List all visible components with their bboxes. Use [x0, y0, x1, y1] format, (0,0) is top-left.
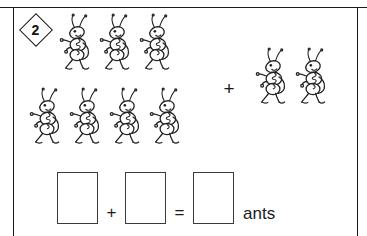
ant-icon — [254, 46, 292, 108]
ant-row — [28, 86, 188, 148]
page-border-top — [0, 7, 367, 8]
group-plus-operator: + — [219, 78, 239, 100]
second-addend-box[interactable] — [125, 172, 166, 224]
page-border-left — [13, 7, 14, 236]
ant-icon — [98, 12, 136, 74]
ant-figure — [138, 12, 176, 74]
ant-figure — [98, 12, 136, 74]
sum-box[interactable] — [193, 172, 234, 224]
answer-equation: + = ants — [57, 172, 275, 236]
page-border-right — [357, 7, 358, 236]
ant-icon — [68, 86, 106, 148]
plus-operator: + — [98, 172, 125, 224]
ant-icon — [148, 86, 186, 148]
ant-figure — [58, 12, 96, 74]
ant-figure — [294, 46, 332, 108]
ant-figure — [108, 86, 146, 148]
ant-figure — [148, 86, 186, 148]
ant-figure — [254, 46, 292, 108]
ant-icon — [58, 12, 96, 74]
first-addend-box[interactable] — [57, 172, 98, 224]
left-ant-group — [28, 12, 218, 164]
ant-icon — [294, 46, 332, 108]
answer-unit-label: ants — [234, 172, 275, 224]
ant-icon — [108, 86, 146, 148]
ant-row — [58, 12, 178, 74]
ant-icon — [28, 86, 66, 148]
ant-row — [254, 46, 334, 108]
right-ant-group — [254, 46, 350, 124]
ant-figure — [28, 86, 66, 148]
ant-figure — [68, 86, 106, 148]
worksheet-page: 2 + + = ants — [0, 0, 367, 236]
ant-icon — [138, 12, 176, 74]
equals-operator: = — [166, 172, 193, 224]
